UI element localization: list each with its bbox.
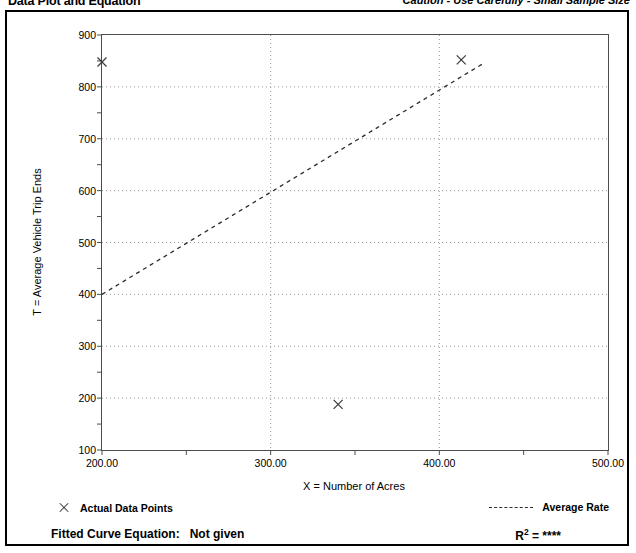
legend-item-average-rate: Average Rate bbox=[489, 501, 609, 513]
data-point-marker bbox=[98, 57, 107, 66]
legend-label-average-rate: Average Rate bbox=[542, 501, 609, 513]
axes-frame: 100200300400500600700800900 200.00300.00… bbox=[101, 34, 609, 451]
y-tick-label: 100 bbox=[78, 444, 96, 456]
caution-note: Caution - Use Carefully - Small Sample S… bbox=[403, 0, 630, 6]
r-squared-exponent: 2 bbox=[524, 527, 529, 537]
x-tick-label: 300.00 bbox=[255, 457, 287, 469]
y-tick-label: 200 bbox=[78, 392, 96, 404]
y-tick-label: 400 bbox=[78, 288, 96, 300]
y-tick-label: 300 bbox=[78, 340, 96, 352]
chart-footer: Fitted Curve Equation: Not given R2 = **… bbox=[7, 527, 631, 551]
legend-label-actual-data-points: Actual Data Points bbox=[80, 502, 173, 514]
x-tick-label: 200.00 bbox=[86, 457, 118, 469]
y-tick-label: 900 bbox=[78, 29, 96, 41]
y-tick-label: 700 bbox=[78, 133, 96, 145]
fitted-curve-value: Not given bbox=[190, 527, 245, 541]
y-axis-title-text: T = Average Vehicle Trip Ends bbox=[31, 168, 43, 315]
r-squared-value: R2 = **** bbox=[515, 527, 561, 543]
chart-legend: Actual Data Points Average Rate bbox=[7, 499, 631, 525]
fitted-curve-equation: Fitted Curve Equation: Not given bbox=[51, 527, 244, 541]
legend-item-actual-data-points: Actual Data Points bbox=[57, 501, 173, 515]
y-tick-label: 600 bbox=[78, 185, 96, 197]
document-header: Data Plot and Equation Caution - Use Car… bbox=[0, 0, 636, 10]
plot-area: T = Average Vehicle Trip Ends 1002003004… bbox=[7, 12, 631, 490]
x-axis-title: X = Number of Acres bbox=[101, 480, 607, 492]
r-squared-symbol: R bbox=[515, 529, 524, 543]
page-title: Data Plot and Equation bbox=[8, 0, 140, 8]
r-squared-number: **** bbox=[542, 529, 561, 543]
data-layer bbox=[102, 35, 608, 450]
data-point-marker bbox=[457, 55, 466, 64]
y-tick-label: 500 bbox=[78, 237, 96, 249]
x-tick-label: 400.00 bbox=[423, 457, 455, 469]
fitted-curve-label: Fitted Curve Equation: bbox=[51, 527, 180, 541]
data-point-marker bbox=[334, 400, 343, 409]
x-marker-icon bbox=[57, 501, 71, 515]
chart-panel: T = Average Vehicle Trip Ends 1002003004… bbox=[5, 10, 629, 546]
dashed-line-icon bbox=[489, 507, 533, 508]
y-axis-title: T = Average Vehicle Trip Ends bbox=[29, 34, 45, 449]
y-tick-label: 800 bbox=[78, 81, 96, 93]
r-squared-equals: = bbox=[532, 529, 539, 543]
x-tick-label: 500.00 bbox=[592, 457, 624, 469]
